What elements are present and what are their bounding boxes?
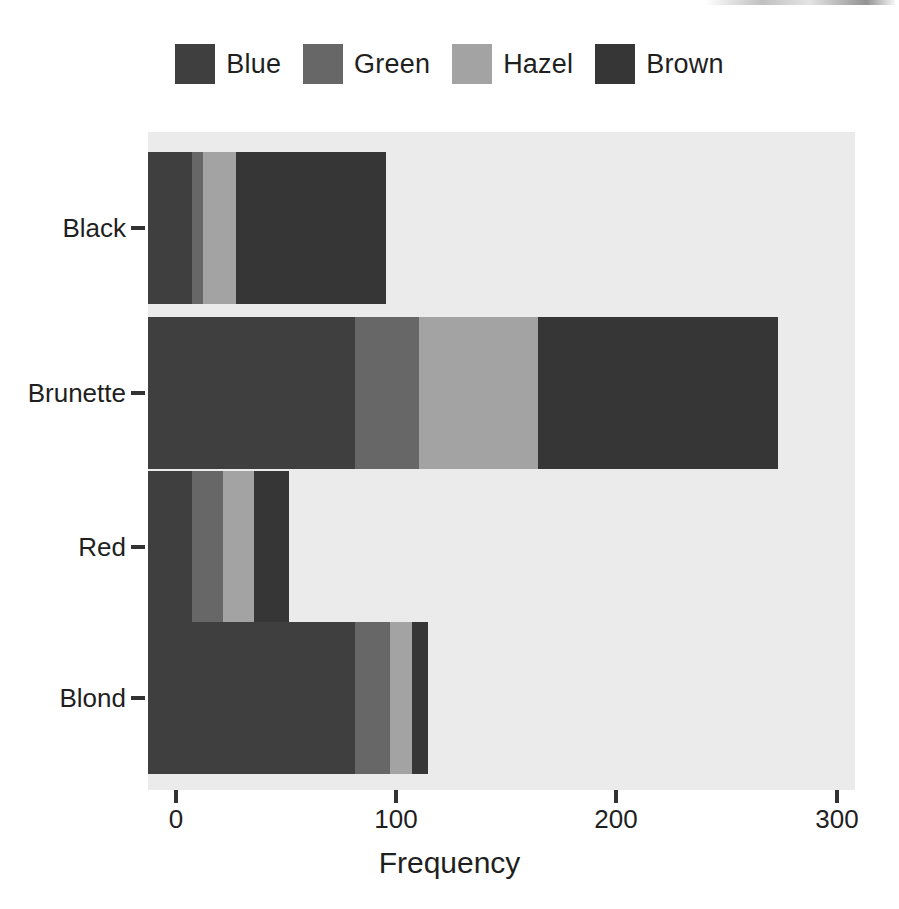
- bar-segment-brunette-blue: [148, 317, 355, 469]
- x-label-200: 200: [594, 804, 637, 835]
- legend-swatch-green-icon: [303, 44, 343, 84]
- bar-stack-brunette: [148, 317, 778, 469]
- x-tick-0: [174, 790, 178, 803]
- y-axis: Black Brunette Red Blond: [0, 132, 148, 790]
- bar-segment-red-blue: [148, 471, 192, 623]
- y-label-red: Red: [78, 532, 126, 563]
- bar-segment-red-hazel: [223, 471, 254, 623]
- x-tick-300: [835, 790, 839, 803]
- bar-segment-red-green: [192, 471, 223, 623]
- legend-label-green: Green: [354, 49, 430, 80]
- bar-stack-red: [148, 471, 289, 623]
- bar-segment-red-brown: [254, 471, 289, 623]
- bar-segment-black-brown: [236, 152, 386, 304]
- y-tick-brunette: [131, 391, 145, 395]
- bar-segment-brunette-brown: [538, 317, 778, 469]
- plot-panel: [148, 132, 855, 790]
- bar-segment-blond-blue: [148, 622, 355, 774]
- legend-label-hazel: Hazel: [503, 49, 573, 80]
- legend-swatch-brown-icon: [595, 44, 635, 84]
- legend-item-green: Green: [303, 44, 430, 84]
- y-tick-blond: [131, 696, 145, 700]
- legend-swatch-hazel-icon: [452, 44, 492, 84]
- x-tick-100: [394, 790, 398, 803]
- y-label-blond: Blond: [60, 683, 127, 714]
- bar-segment-black-green: [192, 152, 203, 304]
- bar-segment-black-hazel: [203, 152, 236, 304]
- bar-segment-blond-brown: [412, 622, 428, 774]
- legend-label-blue: Blue: [226, 49, 281, 80]
- x-tick-200: [614, 790, 618, 803]
- legend-item-blue: Blue: [175, 44, 281, 84]
- legend-item-hazel: Hazel: [452, 44, 573, 84]
- x-axis: 0 100 200 300: [148, 790, 855, 850]
- bar-segment-blond-hazel: [390, 622, 412, 774]
- scan-artifact: [705, 0, 895, 5]
- legend-label-brown: Brown: [646, 49, 724, 80]
- y-tick-red: [131, 545, 145, 549]
- bar-segment-brunette-green: [355, 317, 419, 469]
- x-label-100: 100: [374, 804, 417, 835]
- legend-item-brown: Brown: [595, 44, 724, 84]
- legend-swatch-blue-icon: [175, 44, 215, 84]
- bar-stack-black: [148, 152, 386, 304]
- y-label-brunette: Brunette: [28, 378, 126, 409]
- x-label-0: 0: [169, 804, 183, 835]
- bar-segment-blond-green: [355, 622, 390, 774]
- bar-segment-brunette-hazel: [419, 317, 538, 469]
- bar-stack-blond: [148, 622, 428, 774]
- stacked-bar-chart: Blue Green Hazel Brown Black Brunette Re…: [0, 0, 899, 909]
- y-tick-black: [131, 226, 145, 230]
- x-axis-title: Frequency: [0, 846, 899, 880]
- y-label-black: Black: [62, 213, 126, 244]
- bar-segment-black-blue: [148, 152, 192, 304]
- x-label-300: 300: [815, 804, 858, 835]
- chart-legend: Blue Green Hazel Brown: [0, 40, 899, 88]
